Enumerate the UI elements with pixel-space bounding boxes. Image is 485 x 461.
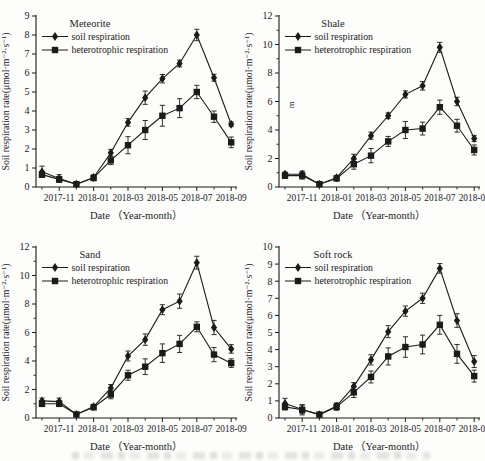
- y-tick-label: 5: [25, 86, 30, 97]
- square-marker: [108, 157, 114, 163]
- square-marker: [56, 401, 62, 407]
- y-tick-label: 0: [268, 181, 273, 192]
- y-tick-label: 0: [268, 412, 273, 423]
- x-tick-label: 2018-07: [424, 424, 455, 434]
- series-line: [42, 35, 231, 184]
- panel-title: Meteorite: [70, 18, 111, 29]
- square-marker: [454, 351, 460, 357]
- x-tick-label: 2018-05: [390, 424, 421, 434]
- panel-soft-rock: 0123456789102017-112018-012018-032018-05…: [243, 232, 485, 461]
- square-marker: [316, 411, 322, 417]
- y-tick-label: 2: [25, 384, 30, 395]
- square-marker: [419, 125, 425, 131]
- x-axis-title: Date （Year-month）: [90, 441, 182, 452]
- x-tick-label: 2018-05: [390, 193, 421, 203]
- x-tick-label: 2018-09: [459, 424, 485, 434]
- x-tick-label: 2018-03: [356, 193, 387, 203]
- square-marker: [142, 127, 148, 133]
- x-tick-label: 2018-01: [321, 193, 352, 203]
- y-axis-title: Soil respiration rate(μmol·m⁻²·s⁻¹): [243, 263, 255, 401]
- y-tick-label: 12: [20, 241, 30, 252]
- square-marker: [56, 176, 62, 182]
- x-tick-label: 2018-07: [181, 424, 212, 434]
- diamond-legend-icon: [52, 32, 58, 41]
- x-tick-label: 2018-09: [459, 193, 485, 203]
- square-legend-icon: [295, 278, 301, 284]
- x-tick-label: 2018-03: [356, 424, 387, 434]
- axes: [279, 15, 480, 187]
- cropped-caption-artifact: [72, 452, 430, 459]
- y-tick-label: 5: [268, 327, 273, 338]
- square-marker: [125, 372, 131, 378]
- square-marker: [125, 142, 131, 148]
- legend-label-heterotrophic-respiration: heterotrophic respiration: [315, 275, 412, 286]
- x-tick-label: 2017-11: [287, 193, 318, 203]
- legend-label-heterotrophic-respiration: heterotrophic respiration: [72, 275, 169, 286]
- legend-label-soil-respiration: soil respiration: [72, 262, 131, 273]
- x-tick-label: 2018-01: [78, 424, 109, 434]
- x-tick-label: 2018-01: [321, 424, 352, 434]
- panel-sand: 0246810122017-112018-012018-032018-05201…: [0, 232, 242, 461]
- square-marker: [228, 360, 234, 366]
- y-tick-label: 8: [25, 29, 30, 40]
- x-axis-title: Date （Year-month）: [333, 441, 425, 452]
- square-marker: [176, 105, 182, 111]
- legend-label-heterotrophic-respiration: heterotrophic respiration: [72, 44, 169, 55]
- square-marker: [39, 401, 45, 407]
- y-tick-label: 6: [25, 67, 30, 78]
- square-marker: [351, 161, 357, 167]
- square-marker: [402, 344, 408, 350]
- y-tick-label: 9: [268, 259, 273, 270]
- diamond-marker: [437, 43, 443, 52]
- diamond-marker: [454, 97, 460, 106]
- y-tick-label: 8: [25, 298, 30, 309]
- series-line: [285, 325, 474, 415]
- square-marker: [108, 391, 114, 397]
- y-tick-label: 4: [25, 105, 30, 116]
- y-tick-label: 12: [263, 10, 273, 21]
- square-marker: [316, 181, 322, 187]
- square-marker: [299, 172, 305, 178]
- square-marker: [402, 127, 408, 133]
- diamond-marker: [420, 81, 426, 90]
- square-legend-icon: [295, 47, 301, 53]
- square-marker: [142, 364, 148, 370]
- legend-label-soil-respiration: soil respiration: [315, 31, 374, 42]
- diamond-legend-icon: [52, 263, 58, 272]
- y-tick-label: 7: [25, 48, 30, 59]
- square-legend-icon: [52, 47, 58, 53]
- square-marker: [90, 404, 96, 410]
- x-tick-label: 2017-11: [44, 193, 75, 203]
- square-marker: [39, 171, 45, 177]
- series-line: [285, 47, 474, 184]
- legend-label-soil-respiration: soil respiration: [72, 31, 131, 42]
- y-tick-label: 7: [268, 293, 273, 304]
- square-marker: [437, 322, 443, 328]
- y-tick-label: 2: [268, 153, 273, 164]
- y-tick-label: 4: [25, 355, 30, 366]
- square-marker: [211, 351, 217, 357]
- y-axis-title: Soil respiration rate(μmol·m⁻²·s⁻¹): [243, 32, 255, 170]
- y-tick-label: 6: [25, 327, 30, 338]
- panel-title: Sand: [80, 249, 102, 260]
- square-marker: [437, 104, 443, 110]
- square-marker: [194, 89, 200, 95]
- diamond-marker: [177, 297, 183, 306]
- series-heterotrophic-respiration: [39, 85, 235, 187]
- y-tick-label: 8: [268, 67, 273, 78]
- y-tick-label: 6: [268, 96, 273, 107]
- square-marker: [368, 374, 374, 380]
- x-tick-label: 2017-11: [287, 424, 318, 434]
- diamond-marker: [228, 120, 234, 129]
- series-heterotrophic-respiration: [282, 100, 478, 187]
- y-tick-label: 10: [263, 241, 273, 252]
- diamond-legend-icon: [295, 263, 301, 272]
- legend-label-heterotrophic-respiration: heterotrophic respiration: [315, 44, 412, 55]
- y-tick-label: 4: [268, 124, 273, 135]
- square-marker: [299, 407, 305, 413]
- panel-shale-svg: 0246810122017-112018-012018-032018-05201…: [243, 1, 485, 230]
- square-legend-icon: [52, 278, 58, 284]
- y-tick-label: 6: [268, 310, 273, 321]
- series-soil-respiration: [282, 264, 477, 419]
